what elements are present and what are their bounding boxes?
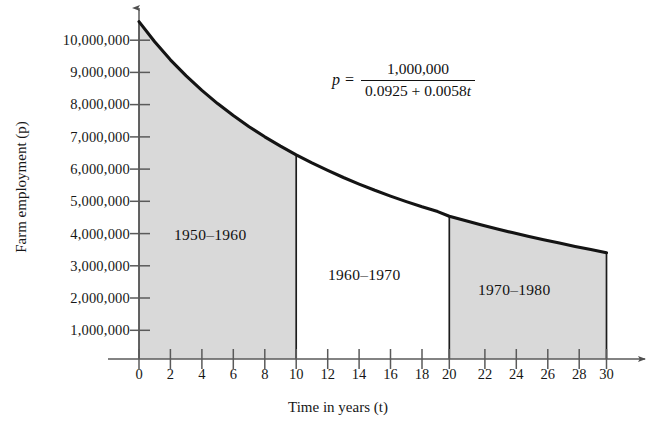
x-axis-labels: 0 2 4 6 8 10 12 14 16 18 20 22 24 26 28 …: [0, 366, 653, 392]
region-shade-1950-1960: [139, 22, 296, 359]
region-label-1960-1970: 1960–1970: [328, 266, 400, 284]
x-tick-label-20: 20: [429, 366, 469, 383]
equation-numerator: 1,000,000: [381, 60, 455, 80]
equation-denominator: 0.0925 + 0.0058t: [361, 80, 475, 101]
equation-lhs: p: [332, 71, 340, 89]
x-axis-title: Time in years (t): [238, 399, 438, 416]
equation-annotation: p = 1,000,000 0.0925 + 0.0058t: [332, 60, 475, 101]
x-tick-label-30: 30: [587, 366, 627, 383]
equation-denominator-variable: t: [467, 82, 471, 99]
equation-denominator-terms: 0.0925 + 0.0058: [365, 82, 467, 99]
y-axis-title: Farm employment (p): [13, 121, 29, 253]
equation-fraction: 1,000,000 0.0925 + 0.0058t: [361, 60, 475, 101]
region-label-1950-1960: 1950–1960: [174, 226, 246, 244]
y-tick-label-10000000: 10,000,000: [2, 32, 130, 49]
equation-equals-sign: =: [345, 71, 354, 89]
chart-figure: 10,000,000 9,000,000 8,000,000 7,000,000…: [0, 0, 653, 430]
y-axis-title-wrapper: Farm employment (p): [12, 72, 34, 302]
region-label-1970-1980: 1970–1980: [478, 281, 550, 299]
y-tick-label-1000000: 1,000,000: [2, 322, 130, 339]
